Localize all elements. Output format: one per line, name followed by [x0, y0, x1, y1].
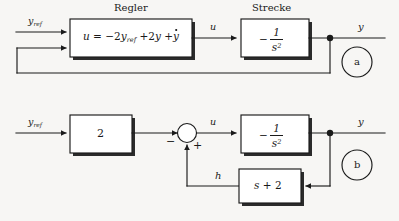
b-output-label: y — [358, 117, 364, 127]
eq-term1-coeff: 2 — [114, 30, 121, 42]
a-badge-label: a — [354, 57, 360, 67]
a-plant-transfer-function: − 1 s2 — [259, 27, 283, 52]
eq-term2-sign: + — [139, 30, 148, 42]
eq-term2-var: y — [155, 30, 161, 42]
a-control-signal-label: u — [210, 22, 216, 32]
a-controller-equation: u = −2yref +2y +y — [83, 31, 179, 43]
b-sum-sign-left: − — [166, 136, 175, 147]
a-output-label: y — [358, 22, 364, 32]
b-badge-label: b — [354, 160, 360, 170]
eq-lhs: u — [83, 30, 90, 42]
a-controller-caption: Regler — [114, 3, 148, 13]
a-plant-den-exponent: 2 — [277, 42, 281, 50]
b-feedback-var: s — [254, 179, 259, 191]
b-feedback-expression: s + 2 — [254, 180, 282, 191]
eq-term3-sign: + — [164, 30, 173, 42]
b-input-label: yref — [28, 117, 42, 129]
b-plant-transfer-function: − 1 s2 — [259, 123, 283, 148]
eq-equals: = — [93, 30, 102, 42]
b-plant-den-exponent: 2 — [277, 138, 281, 146]
b-sum-sign-bottom: + — [193, 140, 202, 151]
eq-term3-var-ydot: y — [173, 31, 179, 42]
b-control-signal-label: u — [210, 117, 216, 127]
a-plant-minus: − — [259, 34, 268, 45]
eq-term1-sign: − — [105, 30, 114, 42]
eq-term2-coeff: 2 — [148, 30, 155, 42]
b-plant-fraction-bar — [270, 135, 284, 136]
b-feedback-signal-label: h — [215, 171, 221, 181]
a-plant-fraction-bar — [270, 39, 284, 40]
a-input-label: yref — [28, 16, 42, 28]
block-diagram-figure: Regler Strecke yref u = −2yref +2y +y u … — [0, 0, 399, 221]
b-input-subscript: ref — [33, 122, 41, 128]
a-plant-numerator: 1 — [271, 27, 282, 38]
a-plant-caption: Strecke — [252, 3, 291, 13]
b-feedback-op: + — [263, 179, 272, 191]
b-gain-value: 2 — [97, 128, 104, 139]
eq-term1-subscript: ref — [127, 36, 136, 44]
b-plant-numerator: 1 — [271, 123, 282, 134]
b-feedback-const: 2 — [275, 179, 282, 191]
diagram-vector-layer — [0, 0, 399, 221]
b-plant-minus: − — [259, 130, 268, 141]
a-input-subscript: ref — [33, 21, 41, 27]
